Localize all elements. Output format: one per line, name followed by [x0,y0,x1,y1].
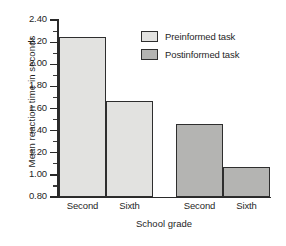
y-tick-mark [50,42,57,43]
bar-chart-figure: Mean reaction time in seconds 2.402.202.… [0,0,286,246]
y-tick-label: 1.00 [1,168,47,179]
legend-swatch-icon-preinformed [141,31,158,42]
y-minor-tick-mark [53,141,57,142]
y-tick-label: 2.00 [1,57,47,68]
x-tick-label: Second [176,200,223,211]
legend-label-postinformed: Postinformed task [165,49,239,60]
y-tick-mark [50,86,57,87]
bar [223,167,270,197]
y-minor-tick-mark [53,53,57,54]
y-minor-tick-mark [53,97,57,98]
bar [106,101,153,197]
legend-item-preinformed: Preinformed task [141,27,239,45]
y-tick-label: 0.80 [1,190,47,201]
y-minor-tick-mark [53,31,57,32]
legend-item-postinformed: Postinformed task [141,45,239,63]
bar [176,124,223,197]
y-tick-label: 2.40 [1,13,47,24]
y-minor-tick-mark [53,185,57,186]
x-axis-line [57,197,271,198]
x-tick-label: Sixth [106,200,153,211]
x-tick-label: Second [59,200,106,211]
y-tick-mark [50,152,57,153]
y-tick-label: 1.40 [1,124,47,135]
legend-label-preinformed: Preinformed task [165,31,235,42]
y-minor-tick-mark [53,119,57,120]
y-tick-mark [50,108,57,109]
y-minor-tick-mark [53,75,57,76]
y-tick-label: 2.20 [1,35,47,46]
y-tick-mark [50,196,57,197]
y-tick-mark [50,130,57,131]
y-tick-label: 1.20 [1,146,47,157]
x-axis-title: School grade [57,218,271,229]
y-tick-label: 1.80 [1,79,47,90]
y-tick-mark [50,19,57,20]
y-tick-mark [50,174,57,175]
y-tick-label: 1.60 [1,102,47,113]
y-tick-mark [50,64,57,65]
bar [59,37,106,197]
y-minor-tick-mark [53,163,57,164]
legend-swatch-icon-postinformed [141,49,158,60]
x-tick-label: Sixth [223,200,270,211]
chart-legend: Preinformed task Postinformed task [141,27,239,63]
